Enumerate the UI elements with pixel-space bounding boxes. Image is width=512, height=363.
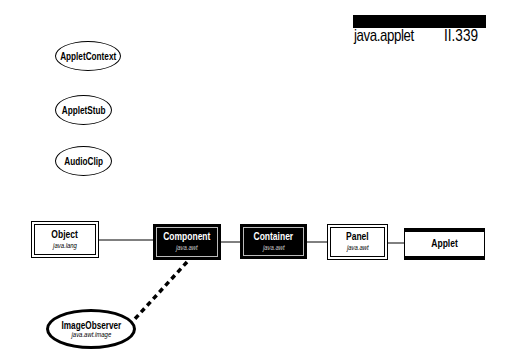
interface-label: AppletContext [60, 51, 116, 62]
class-package: java.lang [53, 241, 77, 251]
class-name: Object [52, 229, 78, 241]
class-box-applet: Applet [404, 228, 485, 260]
class-package: java.awt [176, 243, 198, 253]
interface-package: java.awt.image [71, 331, 111, 338]
interface-imageobserver: ImageObserver java.awt.image [46, 309, 136, 349]
class-name: Applet [431, 238, 457, 250]
interface-label: AudioClip [64, 156, 103, 167]
interface-label: ImageObserver [61, 320, 121, 331]
class-name: Component [163, 231, 210, 243]
class-name: Panel [346, 231, 369, 243]
interface-appletstub: AppletStub [55, 95, 112, 125]
class-box-container: Container java.awt [240, 224, 307, 259]
interface-appletcontext: AppletContext [55, 41, 121, 71]
class-box-panel: Panel java.awt [327, 224, 388, 260]
class-package: java.awt [263, 243, 285, 253]
class-name: Container [254, 231, 294, 243]
interface-audioclip: AudioClip [55, 146, 112, 176]
class-box-component: Component java.awt [153, 224, 221, 260]
class-box-object: Object java.lang [31, 221, 99, 258]
class-package: java.awt [347, 243, 369, 253]
dashed-connector-imageobserver [133, 262, 187, 321]
interface-label: AppletStub [62, 105, 106, 116]
